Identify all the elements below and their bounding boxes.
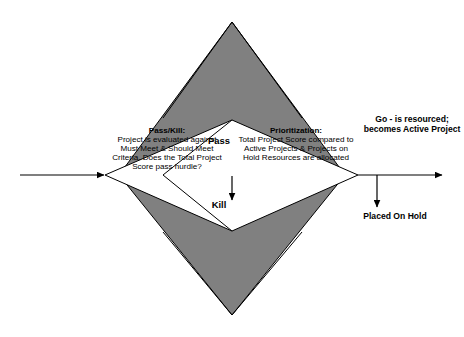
diagram-shapes — [0, 0, 464, 337]
go-outcome-label: Go - is resourced; becomes Active Projec… — [362, 115, 462, 134]
diagram-canvas: Pass/Kill:Project is evaluated against M… — [0, 0, 464, 337]
prioritization-diamond-label: Prioritization:Total Project Score compa… — [238, 126, 354, 162]
pass-kill-diamond-label: Pass/Kill:Project is evaluated against M… — [108, 126, 226, 171]
pass-kill-heading: Pass/Kill: — [108, 126, 226, 135]
pass-label: Pass — [196, 136, 242, 147]
prioritization-heading: Prioritization: — [238, 126, 354, 135]
hold-outcome-label: Placed On Hold — [358, 212, 432, 222]
kill-label: Kill — [198, 200, 240, 211]
prioritization-body: Total Project Score compared to Active P… — [238, 135, 353, 162]
